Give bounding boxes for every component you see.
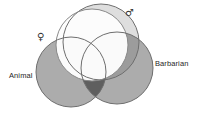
set-label-animal: Animal [9, 71, 33, 80]
set-label-female-symbol-icon: ♀ [37, 32, 44, 42]
set-label-barbarian: Barbarian [155, 59, 188, 68]
venn-diagram-figure: Animal Barbarian ♀ ♂ [0, 0, 199, 119]
set-label-male-symbol-icon: ♂ [125, 8, 134, 18]
